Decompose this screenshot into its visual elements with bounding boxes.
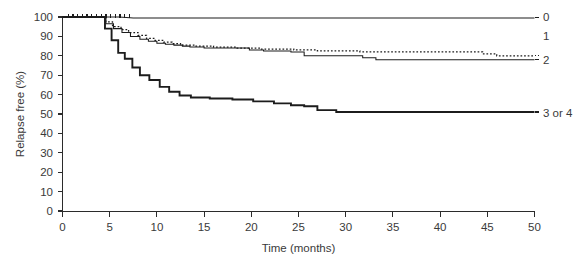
series-label-0: 0 [543, 11, 549, 23]
survival-curves-layer [63, 14, 535, 112]
y-axis-ticks: 100 90 80 70 60 50 40 30 20 10 0 [34, 11, 63, 217]
y-tick-label-90: 90 [40, 30, 53, 42]
x-axis-title: Time (months) [262, 242, 336, 254]
y-tick-label-30: 30 [40, 147, 53, 159]
y-tick-label-80: 80 [40, 50, 53, 62]
relapse-free-survival-chart: 100 90 80 70 60 50 40 30 20 10 0 0 [0, 0, 588, 261]
x-axis-ticks: 0 5 10 15 20 25 30 35 40 45 50 [59, 212, 541, 234]
y-tick-label-60: 60 [40, 89, 53, 101]
x-tick-label-5: 5 [106, 221, 112, 233]
survival-curve-3-or-4 [63, 17, 535, 112]
survival-curve-0 [63, 17, 535, 18]
y-tick-label-50: 50 [40, 108, 53, 120]
y-tick-label-20: 20 [40, 166, 53, 178]
x-tick-label-10: 10 [151, 221, 164, 233]
x-tick-label-35: 35 [387, 221, 400, 233]
survival-curve-2 [63, 17, 535, 60]
y-axis-title: Relapse free (%) [14, 71, 26, 157]
y-tick-label-70: 70 [40, 69, 53, 81]
y-tick-label-0: 0 [47, 205, 53, 217]
y-tick-label-40: 40 [40, 127, 53, 139]
series-label-2: 2 [543, 54, 549, 66]
series-label-3-or-4: 3 or 4 [543, 107, 573, 119]
kaplan-meier-figure: 100 90 80 70 60 50 40 30 20 10 0 0 [0, 0, 588, 261]
series-label-1: 1 [543, 30, 549, 42]
x-tick-label-50: 50 [528, 221, 541, 233]
y-tick-label-100: 100 [34, 11, 53, 23]
axes [63, 17, 535, 212]
y-tick-label-10: 10 [40, 186, 53, 198]
x-tick-label-15: 15 [198, 221, 211, 233]
x-tick-label-20: 20 [245, 221, 258, 233]
x-tick-label-45: 45 [481, 221, 494, 233]
x-tick-label-0: 0 [59, 221, 65, 233]
x-tick-label-40: 40 [434, 221, 447, 233]
x-tick-label-25: 25 [292, 221, 305, 233]
x-tick-label-30: 30 [339, 221, 352, 233]
series-labels-layer: 0123 or 4 [535, 11, 574, 119]
